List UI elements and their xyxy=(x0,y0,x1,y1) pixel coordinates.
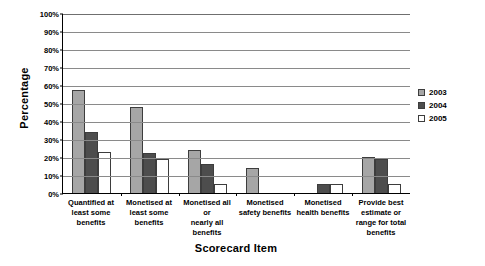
gridline xyxy=(63,122,410,123)
bar-2005 xyxy=(388,184,401,193)
x-tick-mark xyxy=(236,193,237,196)
x-tick-label: Monetisedsafety benefits xyxy=(236,198,294,238)
x-tick-label-line: Monetised at xyxy=(121,198,177,208)
x-tick-label-line: benefits xyxy=(121,218,177,228)
bar-2005 xyxy=(214,184,227,193)
y-tick-label: 70% xyxy=(44,64,59,73)
legend-item-2004[interactable]: 2004 xyxy=(418,99,447,112)
bar-2004 xyxy=(201,164,214,193)
bar-2003 xyxy=(246,168,259,193)
y-tick-mark xyxy=(60,32,63,33)
plot-area-wrapper: 0%10%20%30%40%50%60%70%80%90%100% xyxy=(62,14,410,194)
y-tick-label: 20% xyxy=(44,154,59,163)
x-tick-label-line: Monetised all or xyxy=(179,198,235,218)
y-tick-mark xyxy=(60,86,63,87)
bar-2004 xyxy=(317,184,330,193)
gridline xyxy=(63,14,410,15)
bar-2003 xyxy=(72,90,85,193)
y-tick-mark xyxy=(60,68,63,69)
x-tick-label-line: Monetised xyxy=(237,198,293,208)
x-tick-mark xyxy=(121,193,122,196)
legend-item-2003[interactable]: 2003 xyxy=(418,86,447,99)
x-tick-label: Monetisedhealth benefits xyxy=(294,198,352,238)
bar-2003 xyxy=(362,157,375,193)
x-tick-mark xyxy=(294,193,295,196)
x-tick-label-line: estimate or xyxy=(353,208,409,218)
x-axis-tick-labels: Quantified atleast somebenefitsMonetised… xyxy=(62,198,410,238)
gridline xyxy=(63,158,410,159)
y-tick-label: 50% xyxy=(44,100,59,109)
y-tick-mark xyxy=(60,14,63,15)
x-tick-label-line: Monetised xyxy=(295,198,351,208)
gridline xyxy=(63,104,410,105)
x-tick-mark xyxy=(352,193,353,196)
x-tick-mark xyxy=(179,193,180,196)
y-tick-label: 90% xyxy=(44,28,59,37)
x-tick-label-line: Quantified at xyxy=(63,198,119,208)
y-tick-mark xyxy=(60,194,63,195)
gridline xyxy=(63,176,410,177)
x-tick-label: Quantified atleast somebenefits xyxy=(62,198,120,238)
y-tick-mark xyxy=(60,140,63,141)
x-tick-label: Monetised all ornearly allbenefits xyxy=(178,198,236,238)
y-tick-label: 30% xyxy=(44,136,59,145)
legend-label: 2004 xyxy=(429,101,447,110)
y-tick-label: 80% xyxy=(44,46,59,55)
gridline xyxy=(63,68,410,69)
y-tick-label: 40% xyxy=(44,118,59,127)
plot-area: 0%10%20%30%40%50%60%70%80%90%100% xyxy=(62,14,410,194)
y-tick-label: 0% xyxy=(48,190,59,199)
bar-2005 xyxy=(330,184,343,193)
gridline xyxy=(63,32,410,33)
bar-2003 xyxy=(188,150,201,193)
chart-legend: 200320042005 xyxy=(418,86,447,125)
y-tick-label: 10% xyxy=(44,172,59,181)
y-tick-mark xyxy=(60,176,63,177)
gridline xyxy=(63,86,410,87)
legend-swatch-icon xyxy=(418,89,425,96)
x-tick-label-line: benefits xyxy=(353,228,409,238)
gridline xyxy=(63,50,410,51)
legend-item-2005[interactable]: 2005 xyxy=(418,112,447,125)
x-tick-label: Monetised atleast somebenefits xyxy=(120,198,178,238)
bar-2003 xyxy=(130,107,143,193)
x-axis-title: Scorecard Item xyxy=(62,242,410,254)
y-tick-mark xyxy=(60,122,63,123)
x-tick-label-line: least some xyxy=(63,208,119,218)
x-tick-label-line: Provide best xyxy=(353,198,409,208)
y-tick-mark xyxy=(60,104,63,105)
x-tick-label-line: nearly all xyxy=(179,218,235,228)
legend-swatch-icon xyxy=(418,115,425,122)
legend-label: 2003 xyxy=(429,88,447,97)
x-tick-label-line: range for total xyxy=(353,218,409,228)
x-tick-label: Provide bestestimate orrange for totalbe… xyxy=(352,198,410,238)
x-tick-label-line: least some xyxy=(121,208,177,218)
y-tick-mark xyxy=(60,50,63,51)
x-tick-label-line: benefits xyxy=(179,228,235,238)
y-tick-mark xyxy=(60,158,63,159)
y-tick-label: 60% xyxy=(44,82,59,91)
legend-label: 2005 xyxy=(429,114,447,123)
bar-2004 xyxy=(143,153,156,193)
y-tick-label: 100% xyxy=(40,10,59,19)
x-tick-label-line: benefits xyxy=(63,218,119,228)
legend-swatch-icon xyxy=(418,102,425,109)
x-tick-label-line: safety benefits xyxy=(237,208,293,218)
bar-chart: Percentage 0%10%20%30%40%50%60%70%80%90%… xyxy=(0,0,485,266)
y-axis-title: Percentage xyxy=(18,28,30,168)
gridline xyxy=(63,140,410,141)
x-tick-label-line: health benefits xyxy=(295,208,351,218)
